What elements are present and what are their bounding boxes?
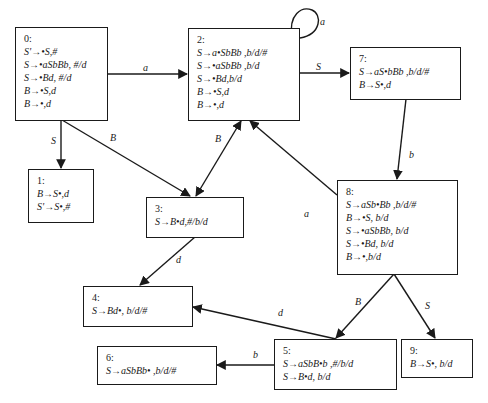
edge-7-8 [397, 99, 406, 179]
lr-item: S→aSb•Bb ,b/d/# [346, 198, 457, 211]
state-id: 9: [410, 344, 472, 357]
state-5: 5: S→aSbB•b ,#/b/d S→B•d, b/d [274, 339, 397, 390]
state-id: 7: [359, 52, 460, 65]
lr-item: S→•Bd, b/d [346, 237, 457, 250]
lr-item: S'→•S,# [24, 45, 107, 58]
state-id: 1: [37, 174, 93, 187]
lr-item: S'→S•,# [37, 200, 93, 213]
state-id: 6: [106, 351, 216, 364]
state-id: 3: [155, 202, 243, 215]
edge-8-5 [336, 274, 394, 338]
lr-item: S→Bd•, b/d/# [92, 304, 192, 317]
lr-item: S→•Bd, #/d [24, 71, 107, 84]
state-7: 7: S→aS•bBb ,b/d/# B→S•,d [350, 47, 461, 100]
state-id: 8: [346, 185, 457, 198]
lr-item: S→•Bd,b/d [197, 72, 299, 85]
edge-8-2 [250, 121, 337, 195]
lr-item: S→a•SbBb ,b/d/# [197, 46, 299, 59]
lr-item: S→aSbBb• ,b/d/# [106, 364, 216, 377]
lr-item: B→•,d [197, 98, 299, 111]
state-6: 6: S→aSbBb• ,b/d/# [97, 346, 217, 385]
state-8: 8: S→aSb•Bb ,b/d/# B→•S, b/d S→•aSbBb, b… [337, 180, 458, 275]
state-id: 2: [197, 33, 299, 46]
lr-item: B→•,d [24, 97, 107, 110]
lr-item: S→•aSbBb ,b/d [197, 59, 299, 72]
lr-item: B→S•,d [37, 187, 93, 200]
lr-item: B→•S, b/d [346, 211, 457, 224]
lr-item: S→•aSbBb, b/d [346, 224, 457, 237]
automaton-diagram: a S B a S B b a B S d d b 0: S'→•S,# S→•… [0, 0, 488, 403]
edge-label-8-5: B [355, 297, 361, 307]
edge-label-2-3: B [215, 134, 221, 144]
state-2: 2: S→a•SbBb ,b/d/# S→•aSbBb ,b/d S→•Bd,b… [188, 28, 300, 121]
state-3: 3: S→B•d,#/b/d [146, 197, 244, 238]
edge-label-0-3: B [110, 133, 116, 143]
edge-3-4 [140, 237, 195, 285]
state-id: 4: [92, 291, 192, 304]
edge-label-3-4: d [176, 255, 181, 265]
lr-item: S→•aSbBb, #/d [24, 58, 107, 71]
lr-item: B→S•, b/d [410, 357, 472, 370]
edge-label-0-1: S [51, 136, 56, 146]
edge-label-8-2: a [304, 209, 309, 219]
lr-item: B→•S,d [197, 85, 299, 98]
state-id: 5: [283, 344, 396, 357]
lr-item: B→•,b/d [346, 250, 457, 263]
edge-label-8-9: S [425, 301, 430, 311]
lr-item: S→B•d, b/d [283, 370, 396, 383]
state-1: 1: B→S•,d S'→S•,# [28, 169, 94, 223]
lr-item: S→aSbB•b ,#/b/d [283, 357, 396, 370]
lr-item: S→B•d,#/b/d [155, 215, 243, 228]
lr-item: S→aS•bBb ,b/d/# [359, 65, 460, 78]
state-4: 4: S→Bd•, b/d/# [83, 286, 193, 327]
edge-label-2-2: a [320, 17, 325, 27]
lr-item: B→•S,d [24, 84, 107, 97]
state-id: 0: [24, 32, 107, 45]
edge-label-2-7: S [316, 62, 321, 72]
edge-label-0-2: a [143, 63, 148, 73]
lr-item: B→S•,d [359, 78, 460, 91]
edge-label-7-8: b [409, 150, 414, 160]
state-9: 9: B→S•, b/d [401, 339, 473, 378]
edge-label-5-4: d [278, 308, 283, 318]
edge-5-4 [193, 307, 336, 339]
state-0: 0: S'→•S,# S→•aSbBb, #/d S→•Bd, #/d B→•S… [15, 27, 108, 121]
edge-label-5-6: b [253, 350, 258, 360]
